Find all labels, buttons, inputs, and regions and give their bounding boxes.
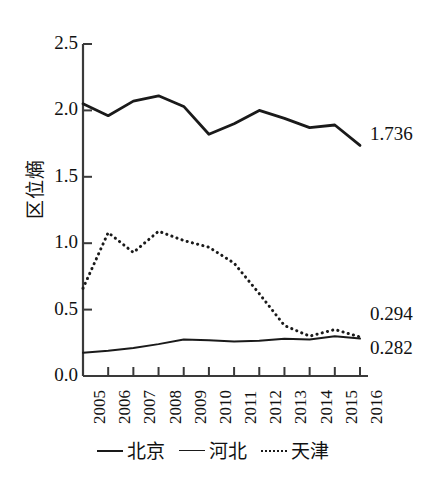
series-line-北京 [83, 96, 360, 146]
series-line-天津 [83, 231, 360, 337]
legend-line-swatch-icon [97, 445, 123, 455]
legend-item-河北[interactable]: 河北 [179, 436, 247, 463]
legend-line-swatch-icon [179, 445, 205, 455]
legend-line-swatch-icon [261, 445, 287, 455]
legend-item-label: 天津 [291, 436, 329, 463]
chart-legend: 北京河北天津 [0, 436, 426, 463]
legend-item-北京[interactable]: 北京 [97, 436, 165, 463]
series-value-label: 0.294 [370, 303, 413, 325]
series-line-河北 [83, 336, 360, 353]
series-value-label: 0.282 [370, 337, 413, 359]
legend-item-label: 北京 [127, 436, 165, 463]
plot-area [0, 0, 426, 478]
legend-item-label: 河北 [209, 436, 247, 463]
line-chart-figure: 区位熵 0.00.51.01.52.02.5 20052006200720082… [0, 0, 426, 478]
series-value-label: 1.736 [370, 123, 413, 145]
legend-item-天津[interactable]: 天津 [261, 436, 329, 463]
